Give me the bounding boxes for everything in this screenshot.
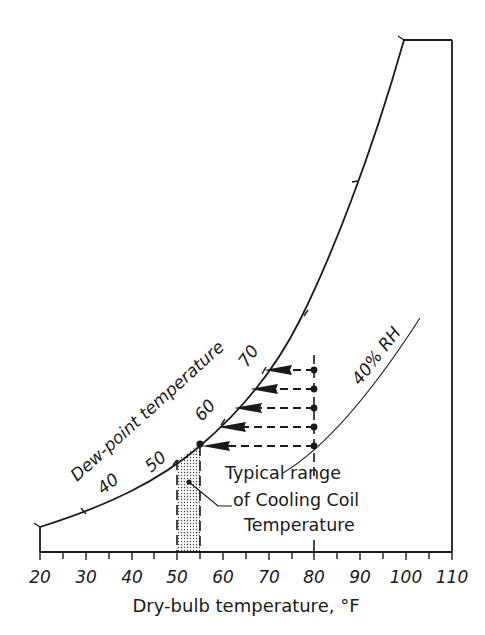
x-tick-label: 30 bbox=[75, 567, 97, 587]
dew-point-label-60: 60 bbox=[190, 395, 219, 424]
x-tick-label: 50 bbox=[166, 567, 188, 587]
curve-end-serif bbox=[34, 523, 40, 527]
x-tick-label: 70 bbox=[258, 567, 280, 587]
x-axis-ticks bbox=[40, 552, 452, 560]
cooling-arrow bbox=[218, 422, 317, 432]
x-tick-label: 90 bbox=[349, 567, 371, 587]
x-tick-label: 40 bbox=[121, 567, 143, 587]
curve-end-serif bbox=[398, 36, 404, 40]
rh-40-label: 40% RH bbox=[347, 323, 405, 389]
x-tick-label: 60 bbox=[212, 567, 234, 587]
cooling-coil-annotation: Typical range of Cooling Coil Temperatur… bbox=[224, 463, 359, 535]
x-axis-tick-labels: 20 30 40 50 60 70 80 90 100 110 bbox=[29, 567, 468, 587]
annotation-line-1: Typical range bbox=[224, 463, 341, 483]
annotation-line-3: Temperature bbox=[243, 515, 355, 535]
psychrometric-diagram: 20 30 40 50 60 70 80 90 100 110 Dry-bulb… bbox=[0, 0, 485, 635]
x-tick-label: 20 bbox=[29, 567, 51, 587]
cooling-arrow bbox=[234, 403, 317, 413]
x-tick-label: 100 bbox=[390, 567, 422, 587]
x-tick-label: 110 bbox=[436, 567, 468, 587]
annotation-line-2: of Cooling Coil bbox=[233, 490, 359, 510]
x-tick-label: 80 bbox=[303, 567, 325, 587]
cooling-arrow bbox=[196, 440, 317, 451]
cooling-arrow bbox=[250, 384, 317, 394]
dew-point-label-40: 40 bbox=[93, 469, 122, 498]
dew-point-label-70: 70 bbox=[234, 341, 263, 370]
x-axis-title: Dry-bulb temperature, °F bbox=[132, 595, 359, 616]
